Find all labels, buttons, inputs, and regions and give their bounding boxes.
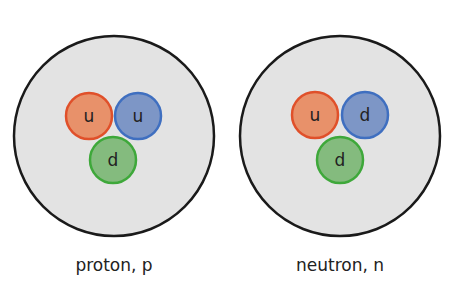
proton-quark-blue: u — [115, 93, 161, 139]
neutron-quark-red: u — [292, 92, 338, 138]
neutron-diagram: u d d — [240, 36, 440, 236]
quark-label: u — [310, 105, 321, 125]
neutron-quark-green: d — [317, 137, 363, 183]
proton-diagram: u u d — [14, 36, 214, 236]
neutron-label: neutron, n — [240, 255, 440, 275]
quark-label: u — [133, 106, 144, 126]
quark-label: d — [335, 150, 346, 170]
quark-label: u — [84, 106, 95, 126]
neutron-quark-blue: d — [342, 92, 388, 138]
proton-quark-red: u — [66, 93, 112, 139]
nucleon-diagram: u u d u d d — [0, 0, 457, 287]
quark-label: d — [360, 105, 371, 125]
proton-label: proton, p — [14, 255, 214, 275]
quark-label: d — [108, 150, 119, 170]
proton-quark-green: d — [90, 137, 136, 183]
